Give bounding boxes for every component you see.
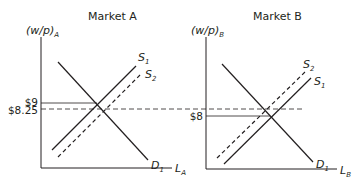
market-a-supply-1-curve	[52, 66, 136, 150]
market-a-supply-2-label: S2	[145, 68, 157, 83]
market-a-panel: Market A (w/p)A LA D1 S1 S2 $9 $8.25	[8, 10, 304, 177]
market-b-supply-2-curve	[217, 71, 306, 158]
market-b-supply-2-label: S2	[303, 58, 315, 73]
market-b-supply-1-label: S1	[314, 75, 325, 90]
market-b-title: Market B	[253, 10, 302, 23]
market-a-price-8-25-label: $8.25	[8, 104, 38, 116]
market-a-demand-label: D1	[151, 159, 164, 174]
market-a-demand-curve	[58, 62, 148, 160]
market-b-supply-1-curve	[224, 78, 311, 164]
market-b-panel: Market B (w/p)B LB D1 S1 S2 $8	[190, 10, 352, 179]
market-a-supply-2-curve	[58, 73, 142, 157]
market-b-x-axis-label: LB	[340, 164, 351, 179]
market-b-demand-label: D1	[316, 158, 329, 173]
market-b-y-axis-label: (w/p)B	[191, 24, 224, 39]
labor-market-diagram: Market A (w/p)A LA D1 S1 S2 $9 $8.25 Mar…	[0, 0, 362, 188]
market-a-x-axis-label: LA	[175, 162, 186, 177]
market-b-price-8-label: $8	[190, 110, 203, 122]
market-a-title: Market A	[88, 10, 137, 23]
market-a-y-axis-label: (w/p)A	[26, 24, 59, 39]
market-a-supply-1-label: S1	[138, 51, 149, 66]
market-b-demand-curve	[222, 64, 313, 162]
